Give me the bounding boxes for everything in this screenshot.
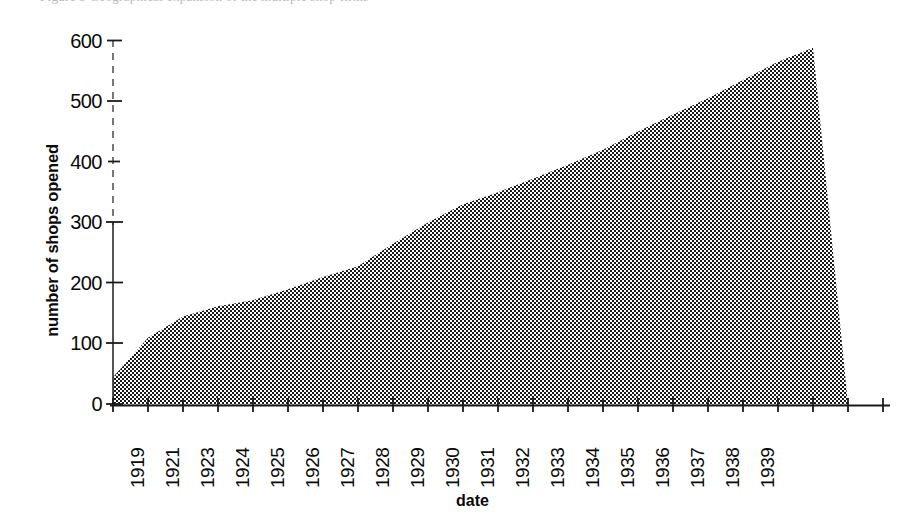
plot-canvas (0, 0, 913, 531)
area-chart-figure: number of shops opened date 600 500 400 … (0, 0, 913, 531)
area-series-fill (113, 48, 848, 405)
y-axis-ticks (106, 41, 123, 405)
